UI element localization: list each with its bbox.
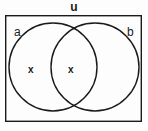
venn-diagram-canvas bbox=[0, 0, 148, 131]
element-mark-set-a-only: x bbox=[28, 64, 34, 75]
set-b-label: b bbox=[127, 26, 134, 38]
set-a-label: a bbox=[14, 26, 21, 38]
set-b-circle bbox=[51, 23, 139, 111]
set-a-circle bbox=[9, 23, 97, 111]
venn-diagram: u a b x x bbox=[0, 0, 148, 131]
universal-set-label: u bbox=[0, 1, 148, 13]
element-mark-intersection: x bbox=[68, 64, 74, 75]
